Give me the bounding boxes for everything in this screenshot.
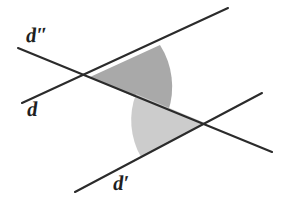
upper-angle-sector [90,45,172,112]
label-d-double-prime: d″ [25,24,48,46]
label-d: d [27,99,38,120]
geometry-figure: d″ d d′ [0,0,286,199]
label-d-prime: d′ [113,173,130,195]
